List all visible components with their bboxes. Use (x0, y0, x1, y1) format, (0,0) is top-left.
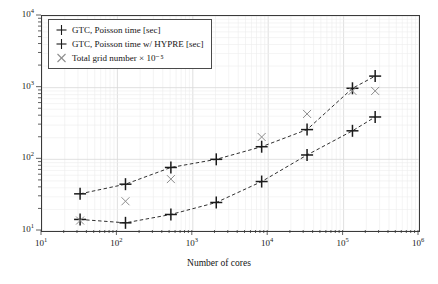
x-tick-label: 104 (252, 238, 282, 248)
legend-item: Total grid number × 10⁻⁵ (53, 51, 204, 65)
legend-label: Total grid number × 10⁻⁵ (70, 53, 164, 63)
x-tick-label: 102 (101, 238, 131, 248)
y-tick-label: 102 (6, 152, 34, 162)
legend-label: GTC, Poisson time [sec] (70, 25, 161, 35)
figure: 101102103104 101102103104105106 Number o… (0, 0, 438, 284)
plus-icon (53, 37, 70, 51)
x-tick-label: 105 (328, 238, 358, 248)
y-tick-label: 104 (6, 9, 34, 19)
x-tick-label: 101 (26, 238, 56, 248)
plus-icon (53, 23, 70, 37)
cross-icon (53, 51, 70, 65)
legend-label: GTC, Poisson time w/ HYPRE [sec] (70, 39, 204, 49)
x-tick-label: 103 (177, 238, 207, 248)
x-axis-label: Number of cores (0, 258, 438, 268)
legend-item: GTC, Poisson time [sec] (53, 23, 204, 37)
x-tick-label: 106 (403, 238, 433, 248)
legend: GTC, Poisson time [sec] GTC, Poisson tim… (48, 19, 212, 69)
y-tick-label: 101 (6, 224, 34, 234)
y-tick-label: 103 (6, 81, 34, 91)
legend-item: GTC, Poisson time w/ HYPRE [sec] (53, 37, 204, 51)
